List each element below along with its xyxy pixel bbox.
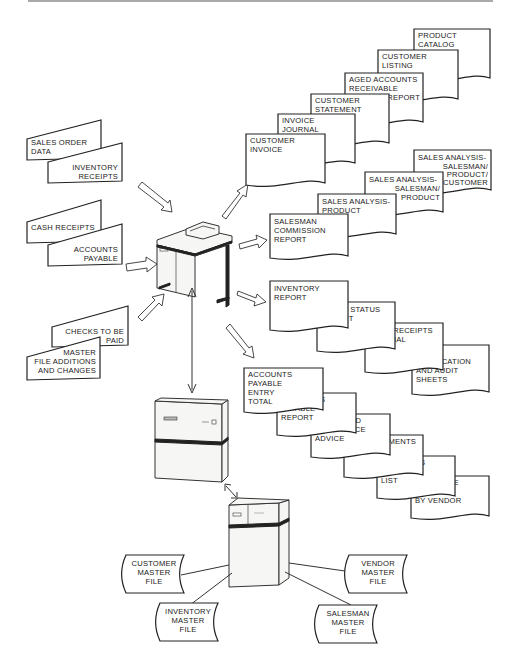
svg-text:INVENTORY: INVENTORY — [72, 163, 118, 172]
svg-text:FILE ADDITIONS: FILE ADDITIONS — [34, 357, 96, 366]
processor-cabinet — [155, 398, 228, 482]
svg-text:VENDOR: VENDOR — [361, 559, 395, 568]
svg-text:MASTER: MASTER — [138, 568, 171, 577]
svg-text:MASTER: MASTER — [172, 616, 205, 625]
desk-processor-connector — [188, 288, 196, 393]
svg-text:PRODUCT: PRODUCT — [401, 193, 440, 202]
output-arrow-sales-analysis — [239, 235, 267, 249]
master-file-salesman: SALESMAN MASTER FILE — [315, 605, 378, 643]
svg-text:AGED ACCOUNTS: AGED ACCOUNTS — [349, 75, 417, 84]
svg-text:FILE: FILE — [146, 577, 163, 586]
svg-text:AND CHANGES: AND CHANGES — [38, 366, 96, 375]
report-inventory: INVENTORY REPORT — [270, 281, 348, 331]
output-arrow-receivables — [222, 184, 248, 219]
master-file-vendor: VENDOR MASTER FILE — [345, 555, 408, 593]
svg-text:CASH RECEIPTS: CASH RECEIPTS — [31, 223, 95, 232]
svg-text:MASTER: MASTER — [63, 348, 96, 357]
svg-text:MASTER: MASTER — [362, 568, 395, 577]
svg-text:FILE: FILE — [370, 577, 387, 586]
svg-text:JOURNAL: JOURNAL — [282, 125, 319, 134]
svg-text:INVOICE: INVOICE — [250, 145, 283, 154]
svg-text:CUSTOMER: CUSTOMER — [315, 96, 360, 105]
svg-text:SALES ANALYSIS-: SALES ANALYSIS- — [322, 197, 391, 206]
svg-text:INVENTORY: INVENTORY — [165, 607, 211, 616]
disk-storage-unit — [229, 498, 289, 587]
svg-text:INVENTORY: INVENTORY — [274, 284, 320, 293]
input-arrow-top — [138, 182, 172, 212]
svg-text:SALES ORDER: SALES ORDER — [31, 138, 88, 147]
svg-text:SALESMAN: SALESMAN — [327, 609, 370, 618]
processor-disk-connector — [225, 484, 237, 498]
svg-text:INVOICE: INVOICE — [282, 116, 315, 125]
svg-text:SALESMAN: SALESMAN — [274, 217, 317, 226]
svg-text:REPORT: REPORT — [274, 235, 307, 244]
svg-text:FILE: FILE — [340, 627, 357, 636]
svg-text:PAID: PAID — [106, 336, 124, 345]
svg-text:TOTAL: TOTAL — [248, 397, 273, 406]
output-arrow-payables — [226, 324, 254, 358]
report-customer-invoice: CUSTOMER INVOICE — [246, 134, 325, 186]
svg-text:MASTER: MASTER — [332, 618, 365, 627]
report-accounts-payable-entry-total: ACCOUNTS PAYABLE ENTRY TOTAL — [244, 368, 323, 413]
svg-text:CUSTOMER: CUSTOMER — [132, 559, 177, 568]
svg-text:CUSTOMER: CUSTOMER — [382, 52, 427, 61]
svg-text:SALES ANALYSIS-: SALES ANALYSIS- — [369, 175, 438, 184]
svg-text:ACCOUNTS: ACCOUNTS — [248, 370, 292, 379]
svg-text:ENTRY: ENTRY — [248, 388, 275, 397]
report-salesman-commission: SALESMAN COMMISSION REPORT — [270, 214, 348, 259]
svg-text:ADVICE: ADVICE — [315, 434, 344, 443]
svg-text:LIST: LIST — [381, 476, 398, 485]
svg-text:CUSTOMER: CUSTOMER — [250, 136, 295, 145]
system-flow-diagram: SALES ORDER DATA INVENTORY RECEIPTS CASH… — [0, 0, 518, 665]
svg-text:SALES ANALYSIS-: SALES ANALYSIS- — [418, 153, 487, 162]
svg-text:SALESMAN/: SALESMAN/ — [395, 184, 441, 193]
svg-text:STATEMENT: STATEMENT — [315, 105, 362, 114]
svg-text:LISTING: LISTING — [382, 61, 413, 70]
svg-text:REPORT: REPORT — [281, 413, 314, 422]
svg-text:REPORT: REPORT — [274, 293, 307, 302]
svg-text:PAYABLE: PAYABLE — [248, 379, 282, 388]
svg-text:BY VENDOR: BY VENDOR — [415, 496, 462, 505]
svg-text:REPORT: REPORT — [387, 93, 420, 102]
input-arrow-middle — [126, 257, 157, 272]
svg-text:RECEIVABLE: RECEIVABLE — [349, 84, 398, 93]
output-arrow-inventory — [237, 291, 266, 306]
svg-text:ACCOUNTS: ACCOUNTS — [74, 245, 118, 254]
input-arrow-bottom — [138, 294, 164, 321]
svg-text:RECEIPTS: RECEIPTS — [78, 172, 118, 181]
svg-text:PAYABLE: PAYABLE — [84, 254, 118, 263]
svg-text:COMMISSION: COMMISSION — [274, 226, 326, 235]
master-file-customer: CUSTOMER MASTER FILE — [122, 555, 185, 593]
svg-text:DATA: DATA — [31, 147, 52, 156]
master-file-inventory: INVENTORY MASTER FILE — [156, 603, 219, 641]
svg-text:CUSTOMER: CUSTOMER — [443, 178, 488, 187]
svg-text:FILE: FILE — [180, 625, 197, 634]
svg-text:CHECKS TO BE: CHECKS TO BE — [65, 327, 124, 336]
svg-text:CATALOG: CATALOG — [418, 40, 455, 49]
svg-text:SHEETS: SHEETS — [416, 375, 448, 384]
svg-text:PRODUCT: PRODUCT — [418, 31, 457, 40]
